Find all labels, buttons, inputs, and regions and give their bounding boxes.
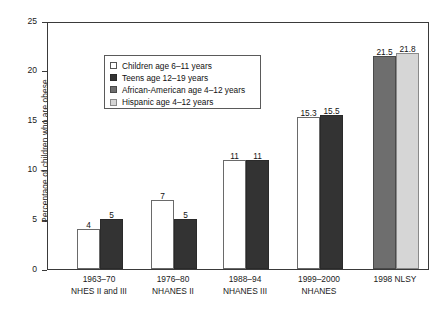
- bar: [100, 219, 123, 269]
- y-tick-label: 5: [32, 214, 37, 224]
- x-group-label-line1: 1998 NLSY: [374, 274, 417, 284]
- bar-value-label: 5: [168, 210, 203, 220]
- bar-value-label: 15.5: [314, 106, 349, 116]
- legend-item: African-American age 4–12 years: [110, 84, 260, 96]
- bar-value-label: 7: [145, 191, 180, 201]
- legend-item: Teens age 12–19 years: [110, 72, 260, 84]
- x-group-label-line1: 1999–2000: [298, 274, 340, 284]
- legend-swatch-icon: [110, 74, 117, 81]
- legend-item-label: Hispanic age 4–12 years: [122, 97, 213, 107]
- obesity-bar-chart: Percentage of children who are obese 051…: [0, 0, 444, 312]
- bar: [77, 229, 100, 269]
- bar: [246, 160, 269, 269]
- bar: [297, 117, 320, 269]
- bar: [223, 160, 246, 269]
- plot-area: 4575111115.315.521.521.8 Children age 6–…: [47, 22, 429, 270]
- bar: [396, 53, 419, 269]
- bar: [320, 115, 343, 269]
- legend-item-label: African-American age 4–12 years: [122, 85, 245, 95]
- bar-value-label: 5: [94, 210, 129, 220]
- legend-item-label: Children age 6–11 years: [122, 61, 212, 71]
- bar-value-label: 21.8: [390, 44, 425, 54]
- legend-item: Children age 6–11 years: [110, 60, 260, 72]
- y-tick-label: 15: [27, 115, 37, 125]
- legend-item: Hispanic age 4–12 years: [110, 96, 260, 108]
- x-group-label-line1: 1988–94: [229, 274, 262, 284]
- bar: [174, 219, 197, 269]
- x-group-label-line2: NHANES: [259, 286, 379, 298]
- chart-legend: Children age 6–11 yearsTeens age 12–19 y…: [104, 55, 261, 109]
- y-tick-label: 0: [32, 264, 37, 274]
- x-group-label: 1998 NLSY: [335, 274, 444, 286]
- legend-swatch-icon: [110, 62, 117, 69]
- bar: [373, 56, 396, 269]
- y-tick-label: 25: [27, 16, 37, 26]
- y-tick-label: 20: [27, 65, 37, 75]
- y-tick-label: 10: [27, 164, 37, 174]
- legend-swatch-icon: [110, 99, 117, 106]
- legend-item-label: Teens age 12–19 years: [122, 73, 208, 83]
- bar-value-label: 11: [240, 151, 275, 161]
- x-group-label-line1: 1963–70: [83, 274, 116, 284]
- legend-swatch-icon: [110, 86, 117, 93]
